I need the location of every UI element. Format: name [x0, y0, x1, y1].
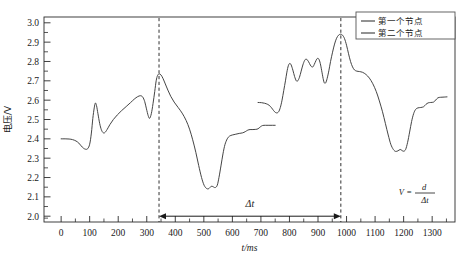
y-axis-minor-ticks: [44, 32, 48, 218]
series-line-2: [258, 34, 447, 151]
formula-numerator: d: [422, 182, 427, 192]
chart-legend[interactable]: 第一个节点第二个节点: [356, 12, 455, 39]
y-axis-tick-labels: 2.02.12.22.32.42.52.62.72.82.93.0: [27, 18, 39, 221]
legend-label-1: 第一个节点: [378, 16, 423, 26]
x-tick-label: 800: [282, 228, 297, 238]
series-line-1: [61, 74, 275, 189]
data-series-lines: [61, 34, 447, 189]
voltage-time-chart: 2.02.12.22.32.42.52.62.72.82.93.0 010020…: [0, 0, 463, 264]
delta-t-label: Δt: [245, 198, 255, 209]
x-axis-title: t/ms: [242, 243, 258, 253]
x-tick-label: 0: [59, 228, 64, 238]
chart-container: 2.02.12.22.32.42.52.62.72.82.93.0 010020…: [0, 0, 463, 264]
x-tick-label: 1300: [423, 228, 442, 238]
legend-label-2: 第二个节点: [378, 28, 423, 38]
formula-equals: =: [406, 187, 412, 197]
x-tick-label: 700: [254, 228, 269, 238]
y-tick-label: 2.3: [27, 154, 39, 164]
y-tick-label: 2.1: [27, 192, 39, 202]
y-tick-label: 2.2: [27, 173, 39, 183]
formula-lhs: V: [399, 187, 406, 197]
x-tick-label: 300: [140, 228, 155, 238]
y-tick-label: 2.8: [27, 57, 39, 67]
y-tick-label: 2.7: [27, 76, 39, 86]
y-tick-label: 2.6: [27, 96, 39, 106]
y-tick-label: 2.0: [27, 212, 39, 222]
x-tick-label: 500: [197, 228, 212, 238]
x-tick-label: 100: [83, 228, 98, 238]
plot-frame: [44, 17, 455, 222]
velocity-formula: V = d Δt: [399, 182, 435, 205]
x-tick-label: 1000: [337, 228, 356, 238]
y-tick-label: 3.0: [27, 18, 39, 28]
delta-t-interval-arrow: [159, 213, 341, 219]
x-tick-label: 200: [111, 228, 126, 238]
y-tick-label: 2.4: [27, 134, 39, 144]
x-tick-label: 1100: [366, 228, 385, 238]
x-tick-label: 900: [311, 228, 326, 238]
y-axis-title: 电压/V: [2, 105, 13, 133]
x-tick-label: 600: [225, 228, 240, 238]
x-axis-tick-labels: 0100200300400500600700800900100011001200…: [59, 228, 442, 238]
x-tick-label: 400: [168, 228, 183, 238]
x-tick-label: 1200: [394, 228, 413, 238]
y-tick-label: 2.5: [27, 115, 39, 125]
y-tick-label: 2.9: [27, 38, 39, 48]
formula-denominator: Δt: [420, 195, 429, 205]
